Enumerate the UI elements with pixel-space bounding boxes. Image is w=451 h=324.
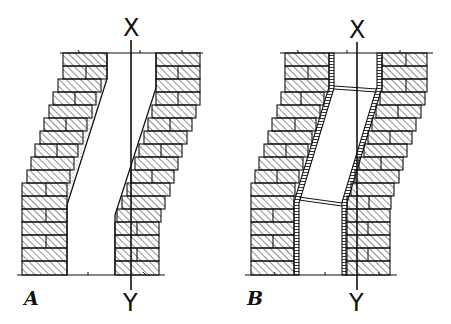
- axis-label-y-a: Y: [123, 291, 138, 315]
- axis-label-x-b: X: [349, 18, 365, 42]
- left-wall-b: [251, 53, 329, 275]
- figure-label-a: A: [24, 289, 39, 308]
- chimney-offset-diagram: [0, 0, 451, 324]
- axis-label-x-a: X: [123, 16, 139, 40]
- figure-label-b: B: [247, 289, 263, 308]
- figure-a: [17, 40, 203, 290]
- left-wall-a: [22, 53, 107, 275]
- axis-label-y-b: Y: [349, 291, 364, 315]
- right-wall-a: [115, 53, 200, 275]
- figure-b: [245, 42, 433, 290]
